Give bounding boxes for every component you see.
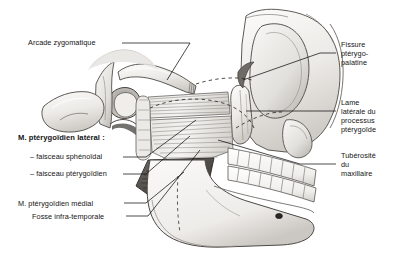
label-lateral-plate-4: ptérygoïde bbox=[341, 125, 376, 134]
zygomatic-bone-stump bbox=[42, 92, 104, 132]
label-maxillary-tuberosity-1: Tubérosité bbox=[341, 151, 376, 160]
lp-insertion-band bbox=[136, 96, 151, 160]
label-medial-pterygoid: M. ptérygoïdien médial bbox=[18, 199, 93, 208]
label-lp-bundle-pterygoid: – faisceau ptérygoïdien bbox=[30, 169, 107, 178]
mental-foramen bbox=[276, 213, 283, 218]
label-lateral-plate-3: processus bbox=[341, 116, 375, 125]
label-lateral-pterygoid-title: M. ptérygoïdien latéral : bbox=[18, 133, 105, 142]
condyle-inner bbox=[114, 93, 137, 118]
label-pterygopalatine-fissure-3: palatine bbox=[341, 58, 367, 67]
label-maxillary-tuberosity-3: maxillaire bbox=[341, 169, 372, 178]
label-infratemporal-fossa: Fosse infra-temporale bbox=[32, 212, 104, 221]
lp-upper-head bbox=[148, 92, 230, 118]
label-pterygopalatine-fissure-2: ptérygo- bbox=[341, 49, 368, 58]
label-lateral-plate-1: Lame bbox=[341, 98, 360, 107]
zygomatic-stump-group bbox=[42, 92, 104, 132]
lateral-pterygoid-muscle bbox=[136, 92, 233, 168]
label-maxillary-tuberosity-2: du bbox=[341, 160, 349, 169]
label-pterygopalatine-fissure-1: Fissure bbox=[341, 40, 365, 49]
label-zygomatic-arch: Arcade zygomatique bbox=[28, 38, 96, 47]
label-lp-bundle-sphenoidal: – faisceau sphénoïdal bbox=[30, 152, 102, 161]
cranium-group bbox=[231, 9, 343, 158]
label-lateral-plate-2: latérale du bbox=[341, 107, 376, 116]
